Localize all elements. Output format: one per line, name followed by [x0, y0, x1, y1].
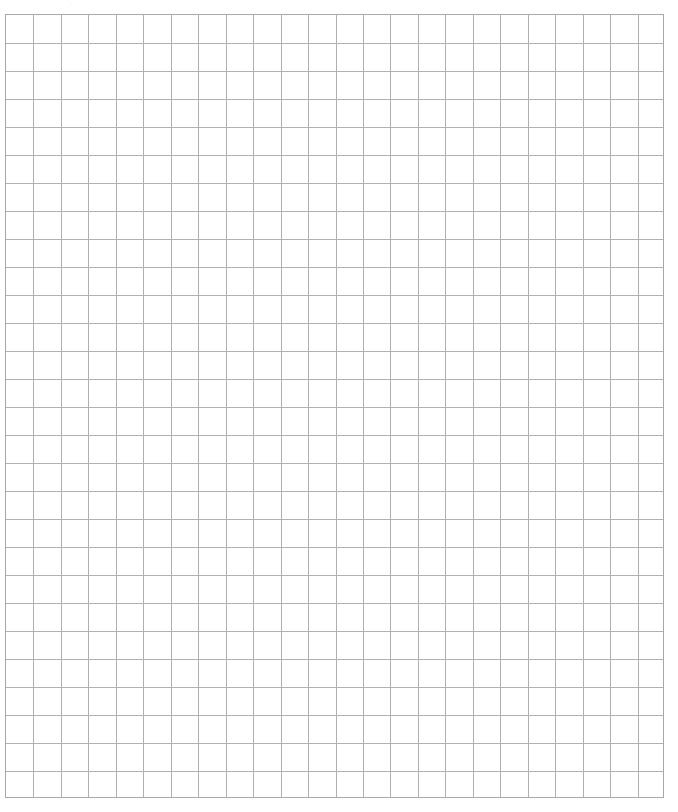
grid-vertical-line [390, 15, 391, 797]
grid-horizontal-line [6, 323, 663, 324]
graph-paper-grid [5, 14, 664, 798]
grid-vertical-line [226, 15, 227, 797]
grid-vertical-line [88, 15, 89, 797]
grid-horizontal-line [6, 631, 663, 632]
grid-vertical-line [198, 15, 199, 797]
grid-horizontal-line [6, 239, 663, 240]
grid-vertical-line [445, 15, 446, 797]
grid-vertical-line [308, 15, 309, 797]
grid-vertical-line [583, 15, 584, 797]
grid-vertical-line [473, 15, 474, 797]
grid-horizontal-line [6, 771, 663, 772]
grid-vertical-line [61, 15, 62, 797]
grid-horizontal-line [6, 407, 663, 408]
grid-vertical-line [171, 15, 172, 797]
grid-vertical-line [418, 15, 419, 797]
grid-horizontal-line [6, 99, 663, 100]
grid-vertical-line [281, 15, 282, 797]
grid-vertical-line [253, 15, 254, 797]
grid-horizontal-line [6, 295, 663, 296]
grid-horizontal-line [6, 71, 663, 72]
grid-horizontal-line [6, 351, 663, 352]
grid-vertical-line [638, 15, 639, 797]
grid-horizontal-line [6, 267, 663, 268]
grid-horizontal-line [6, 435, 663, 436]
grid-vertical-line [555, 15, 556, 797]
grid-vertical-line [336, 15, 337, 797]
grid-horizontal-line [6, 463, 663, 464]
grid-horizontal-line [6, 519, 663, 520]
grid-horizontal-line [6, 379, 663, 380]
grid-horizontal-line [6, 155, 663, 156]
grid-vertical-line [116, 15, 117, 797]
grid-horizontal-line [6, 547, 663, 548]
grid-vertical-line [610, 15, 611, 797]
grid-horizontal-line [6, 127, 663, 128]
grid-horizontal-line [6, 715, 663, 716]
grid-vertical-line [500, 15, 501, 797]
grid-horizontal-line [6, 183, 663, 184]
top-mark: · [71, 0, 73, 6]
grid-horizontal-line [6, 575, 663, 576]
grid-horizontal-line [6, 687, 663, 688]
grid-horizontal-line [6, 491, 663, 492]
grid-horizontal-line [6, 603, 663, 604]
grid-vertical-line [363, 15, 364, 797]
grid-vertical-line [143, 15, 144, 797]
grid-horizontal-line [6, 43, 663, 44]
grid-horizontal-line [6, 211, 663, 212]
grid-horizontal-line [6, 743, 663, 744]
grid-vertical-line [528, 15, 529, 797]
grid-vertical-line [33, 15, 34, 797]
grid-horizontal-line [6, 659, 663, 660]
